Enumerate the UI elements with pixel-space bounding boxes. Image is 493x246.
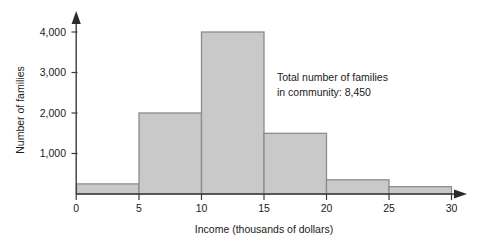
total-families-annotation: Total number of families in community: 8…	[277, 71, 388, 98]
y-tick-label-3000: 3,000	[40, 66, 66, 78]
y-axis: 1,000 2,000 3,000 4,000 Number of famili…	[14, 11, 81, 194]
x-tick-label-5: 5	[136, 202, 142, 214]
annotation-line-2: in community: 8,450	[277, 86, 371, 98]
bar-25-30	[389, 187, 452, 194]
x-tick-label-30: 30	[446, 202, 458, 214]
bar-15-20	[264, 133, 327, 194]
y-axis-title: Number of families	[14, 66, 26, 154]
x-axis-title: Income (thousands of dollars)	[195, 223, 333, 235]
x-tick-label-20: 20	[321, 202, 333, 214]
annotation-line-1: Total number of families	[277, 71, 388, 83]
bar-20-25	[327, 180, 390, 194]
histogram-bars	[77, 32, 452, 194]
histogram-chart-canvas: 1,000 2,000 3,000 4,000 Number of famili…	[0, 0, 493, 246]
x-tick-label-0: 0	[73, 202, 79, 214]
bar-5-10	[139, 113, 202, 194]
bar-0-5	[77, 184, 140, 194]
y-axis-arrowhead	[72, 11, 81, 24]
y-tick-label-2000: 2,000	[40, 107, 66, 119]
x-tick-label-15: 15	[258, 202, 270, 214]
y-tick-label-4000: 4,000	[40, 26, 66, 38]
x-tick-label-25: 25	[383, 202, 395, 214]
x-axis: 0 5 10 15 20 25 30 Income (thousands of …	[73, 189, 467, 235]
histogram-figure: 1,000 2,000 3,000 4,000 Number of famili…	[0, 0, 493, 246]
bar-10-15	[202, 32, 265, 194]
x-tick-label-10: 10	[196, 202, 208, 214]
y-tick-label-1000: 1,000	[40, 147, 66, 159]
x-axis-arrowhead	[454, 189, 467, 198]
